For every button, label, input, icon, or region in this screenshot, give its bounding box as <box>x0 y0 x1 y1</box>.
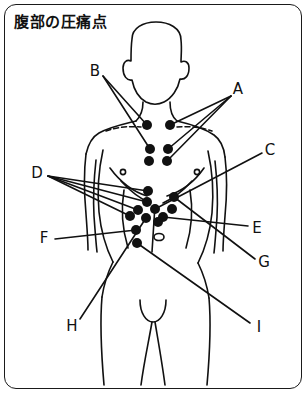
crotch <box>140 300 166 322</box>
tender-point-epigastric-upper <box>143 186 153 196</box>
leg-right-outer <box>207 298 210 385</box>
leader-line-a-3 <box>167 96 231 161</box>
leg-left-outer <box>101 297 104 385</box>
neck-right <box>170 102 177 121</box>
label-h: H <box>66 317 77 335</box>
head-outline <box>123 22 189 104</box>
label-b: B <box>90 62 100 80</box>
figure-page: 腹部の圧痛点 <box>0 0 308 395</box>
label-d: D <box>31 164 43 182</box>
label-g: G <box>258 253 270 271</box>
label-e: E <box>252 219 261 237</box>
tender-point-epigastric-center <box>150 204 160 214</box>
arm-left-inner <box>94 160 97 252</box>
label-i: I <box>257 318 261 336</box>
leader-line-b-2 <box>103 76 150 149</box>
leader-line-a-2 <box>168 96 231 149</box>
tender-point-right-clavicular <box>165 120 175 130</box>
body-diagram <box>0 0 308 395</box>
tender-point-lower-right-chest <box>162 156 172 166</box>
torso-right-side <box>198 151 213 263</box>
label-f: F <box>40 229 49 247</box>
tender-point-upper-left-chest <box>145 144 155 154</box>
tender-point-left-flank <box>125 211 135 221</box>
hip-left <box>102 262 113 297</box>
leg-left-inner <box>141 322 152 385</box>
arm-right-inner <box>214 161 217 253</box>
navel-marker <box>154 234 164 241</box>
tender-point-left-clavicular <box>142 120 152 130</box>
tender-point-right-upper-quadrant <box>167 204 177 214</box>
left-nipple-marker <box>120 169 125 174</box>
tender-point-left-hypochondrium <box>133 205 143 215</box>
leader-line-i <box>137 243 250 323</box>
pectoral-right <box>167 168 204 196</box>
tender-point-lower-left-chest <box>144 156 154 166</box>
tender-point-right-flank <box>169 192 179 202</box>
shoulder-left <box>86 121 136 154</box>
label-c: C <box>265 141 275 159</box>
tender-point-suprapubic <box>153 217 163 227</box>
pectoral-left <box>110 168 147 196</box>
tender-point-epigastric-mid <box>142 197 152 207</box>
leg-right-inner <box>155 322 165 385</box>
neck-left <box>136 102 143 121</box>
tender-point-upper-right-chest <box>163 144 173 154</box>
tender-point-right-lower-quadrant <box>132 238 142 248</box>
label-a: A <box>233 80 243 98</box>
tender-point-left-mid-abdomen <box>141 213 151 223</box>
tender-point-left-lower-quadrant <box>131 225 141 235</box>
leader-line-b-1 <box>103 76 147 125</box>
right-nipple-marker <box>194 169 199 174</box>
